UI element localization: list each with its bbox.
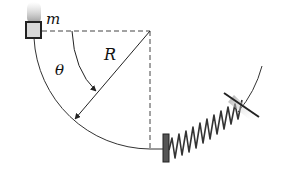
spring xyxy=(169,100,242,158)
angle-arrow xyxy=(72,31,96,91)
motion-blur xyxy=(27,2,41,24)
block-mass xyxy=(26,22,41,38)
angle-label: θ xyxy=(55,61,64,79)
radius-label: R xyxy=(103,45,116,64)
circular-track xyxy=(34,38,164,149)
mass-label: m xyxy=(46,10,60,28)
spring-bumper xyxy=(163,134,169,162)
physics-diagram: m θ R xyxy=(0,0,283,173)
